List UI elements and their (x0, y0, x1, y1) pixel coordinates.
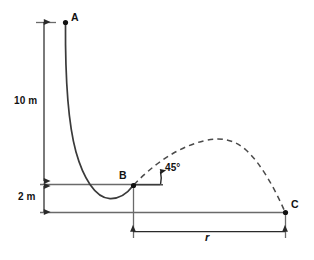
angle-indicator-45 (133, 172, 163, 185)
diagram-canvas (0, 0, 314, 260)
point-c-marker (283, 210, 288, 215)
dimension-label-r: r (205, 232, 209, 243)
point-label-b: B (119, 170, 127, 181)
trajectory-curve-b-to-c (134, 139, 285, 212)
reference-lines (36, 23, 286, 239)
dimension-label-2m: 2 m (18, 192, 36, 202)
projectile-diagram: A B C 10 m 2 m r 45° (0, 0, 314, 260)
point-b-marker (131, 183, 136, 188)
angle-label-45: 45° (165, 163, 180, 173)
point-markers (63, 20, 288, 215)
angle-arc-45-icon (161, 172, 162, 185)
point-a-marker (63, 20, 68, 25)
point-label-a: A (71, 12, 79, 23)
dimension-label-10m: 10 m (14, 96, 37, 106)
point-label-c: C (291, 199, 299, 210)
trajectory-curve-path (134, 139, 285, 212)
